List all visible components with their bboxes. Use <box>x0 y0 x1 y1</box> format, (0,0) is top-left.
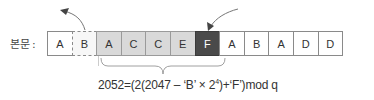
cell-11: D <box>318 31 344 56</box>
hash-formula: 2052=(2(2047 – ‘B’ × 24)+‘F’)mod q <box>98 78 278 92</box>
text-label: 본문 : <box>10 35 35 51</box>
formula-prefix: 2052=(2(2047 – ‘B’ × 2 <box>98 78 215 92</box>
arrow-in-icon <box>207 9 238 31</box>
cell-10: D <box>293 31 319 56</box>
cell-4-window: C <box>145 31 171 56</box>
cell-8: B <box>244 31 270 56</box>
cell-7: A <box>219 31 245 56</box>
formula-suffix: )+‘F’)mod q <box>219 78 278 92</box>
cell-5-window: E <box>170 31 196 56</box>
cell-9: A <box>268 31 294 56</box>
cell-0: A <box>47 31 73 56</box>
cell-1-leaving: B <box>72 31 98 56</box>
cell-3-window: C <box>121 31 147 56</box>
arrow-out-icon <box>60 8 85 30</box>
character-strip: A B A C C E F A B A D D <box>47 31 343 56</box>
cell-6-entering: F <box>195 31 221 56</box>
cell-2-window: A <box>96 31 122 56</box>
brace-icon <box>101 58 225 74</box>
